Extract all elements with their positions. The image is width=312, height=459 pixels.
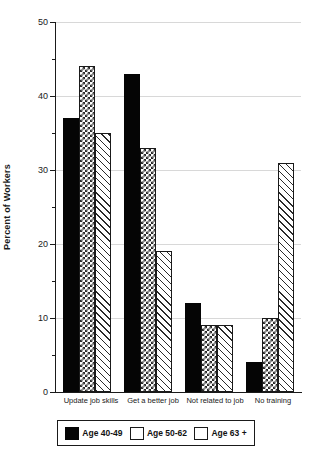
bar-no-training-age-50-62 [262,318,278,392]
y-tick-0 [50,392,56,393]
y-tick-10 [50,318,56,319]
y-tick-label-30: 30 [38,166,48,175]
x-axis-line [55,392,302,393]
bar-no-training-age-40-49 [246,362,262,392]
y-tick-40 [50,96,56,97]
y-tick-minor-5 [52,355,56,356]
bar-get-a-better-job-age-40-49 [124,74,140,392]
bar-not-related-to-job-age-50-62 [201,325,217,392]
bar-not-related-to-job-age-40-49 [185,303,201,392]
y-axis-label: Percent of Workers [2,164,12,250]
y-tick-minor-15 [52,281,56,282]
bar-group-get-a-better-job [124,22,176,392]
bar-update-job-skills-age-50-62 [79,66,95,392]
bar-group-not-related-to-job [185,22,237,392]
bar-update-job-skills-age-63-plus [95,133,111,392]
chart-legend: Age 40-49 Age 50-62 Age 63 + [57,420,255,446]
bar-group-update-job-skills [63,22,115,392]
y-tick-label-0: 0 [43,388,48,397]
legend-label-age-40-49: Age 40-49 [82,429,122,438]
bar-update-job-skills-age-40-49 [63,118,79,392]
legend-swatch-checkerboard-icon [130,427,144,440]
bar-not-related-to-job-age-63-plus [217,325,233,392]
legend-label-age-63-plus: Age 63 + [211,429,246,438]
legend-swatch-hatch-icon [194,427,208,440]
y-tick-20 [50,244,56,245]
chart-figure: Percent of Workers 50 40 30 20 10 0 [0,0,312,459]
legend-swatch-solid-icon [65,427,79,440]
legend-label-age-50-62: Age 50-62 [147,429,187,438]
cropped-top-artifact [0,0,312,6]
bar-get-a-better-job-age-50-62 [140,148,156,392]
legend-item-age-50-62: Age 50-62 [130,427,187,440]
y-tick-label-20: 20 [38,240,48,249]
y-tick-label-50: 50 [38,18,48,27]
y-tick-label-40: 40 [38,92,48,101]
bar-get-a-better-job-age-63-plus [156,251,172,392]
bar-no-training-age-63-plus [278,163,294,392]
y-tick-label-10: 10 [38,314,48,323]
y-tick-minor-45 [52,59,56,60]
legend-item-age-63-plus: Age 63 + [194,427,246,440]
plot-area: 50 40 30 20 10 0 [55,22,301,392]
y-tick-30 [50,170,56,171]
legend-item-age-40-49: Age 40-49 [65,427,122,440]
y-tick-minor-25 [52,207,56,208]
x-category-label-4: No training [240,396,306,405]
y-tick-50 [50,22,56,23]
y-tick-minor-35 [52,133,56,134]
bar-group-no-training [246,22,298,392]
